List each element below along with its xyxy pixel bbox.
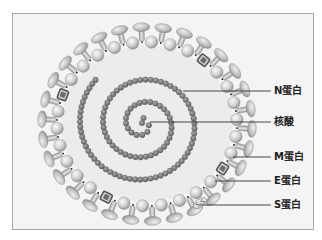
rna-bead <box>125 126 131 132</box>
m-protein-bead <box>136 200 148 212</box>
rna-bead <box>143 177 149 183</box>
rna-bead <box>192 126 198 132</box>
label-e-protein: E蛋白 <box>274 175 301 187</box>
rna-bead <box>123 121 129 127</box>
rna-bead <box>169 125 175 131</box>
rna-bead <box>123 115 129 121</box>
m-protein-bead <box>145 36 157 48</box>
m-protein-bead <box>127 37 139 49</box>
rna-bead <box>101 109 107 115</box>
rna-bead <box>191 131 197 137</box>
label-s-protein: S蛋白 <box>274 199 301 211</box>
rna-bead <box>100 114 106 120</box>
m-protein-bead <box>205 176 217 188</box>
m-protein-bead <box>118 197 130 209</box>
m-protein-bead <box>231 113 243 125</box>
rna-bead <box>132 102 138 108</box>
rna-bead <box>78 124 84 130</box>
label-m-protein: M蛋白 <box>274 151 304 163</box>
rna-bead <box>132 177 138 183</box>
rna-bead <box>191 136 197 142</box>
rna-bead <box>102 130 108 136</box>
rna-bead <box>128 153 134 159</box>
m-protein-bead <box>92 49 104 61</box>
rna-bead <box>132 78 138 84</box>
m-protein-bead <box>228 96 240 108</box>
m-protein-bead <box>54 139 66 151</box>
rna-bead <box>148 153 154 159</box>
rna-bead <box>192 121 198 127</box>
rna-bead <box>148 176 154 182</box>
rna-bead <box>138 77 144 83</box>
rna-bead <box>122 175 128 181</box>
rna-bead <box>93 77 99 83</box>
m-protein-bead <box>108 41 120 53</box>
rna-bead <box>133 154 139 160</box>
rna-bead <box>145 129 151 135</box>
rna-bead <box>153 78 159 84</box>
rna-bead <box>142 99 148 105</box>
label-n-protein: N蛋白 <box>274 85 302 97</box>
m-protein-bead <box>84 182 96 194</box>
m-protein-bead <box>65 73 77 85</box>
m-protein-bead <box>61 155 73 167</box>
m-protein-bead <box>211 66 223 78</box>
rna-bead <box>167 115 173 121</box>
rna-bead <box>140 132 146 138</box>
rna-bead <box>148 77 154 83</box>
rna-bead <box>143 154 149 160</box>
m-protein-bead <box>71 170 83 182</box>
rna-bead <box>100 120 106 126</box>
rna-bead <box>138 155 144 161</box>
m-protein-bead <box>77 60 89 72</box>
label-nucleic-acid: 核酸 <box>274 116 294 128</box>
rna-bead <box>134 132 140 138</box>
rna-bead <box>78 129 84 135</box>
rna-bead <box>139 120 145 126</box>
rna-bead <box>147 99 153 105</box>
m-protein-bead <box>182 45 194 57</box>
m-protein-bead <box>230 130 242 142</box>
rna-bead <box>190 111 196 117</box>
m-protein-bead <box>51 122 63 134</box>
rna-bead <box>137 177 143 183</box>
rna-bead <box>127 80 133 86</box>
rna-bead <box>77 119 83 125</box>
m-protein-bead <box>52 105 64 117</box>
rna-bead <box>77 114 83 120</box>
rna-bead <box>137 100 143 106</box>
rna-bead <box>146 122 152 128</box>
rna-bead <box>158 173 164 179</box>
rna-bead <box>168 120 174 126</box>
m-protein-bead <box>164 39 176 51</box>
rna-bead <box>191 116 197 122</box>
rna-bead <box>153 175 159 181</box>
rna-bead <box>143 77 149 83</box>
rna-bead <box>79 134 85 140</box>
m-protein-bead <box>155 199 167 211</box>
m-protein-bead <box>225 147 237 159</box>
m-protein-bead <box>173 194 185 206</box>
rna-bead <box>78 109 84 115</box>
rna-bead <box>168 130 174 136</box>
rna-bead <box>127 176 133 182</box>
rna-bead <box>101 125 107 131</box>
rna-bead <box>141 115 147 121</box>
